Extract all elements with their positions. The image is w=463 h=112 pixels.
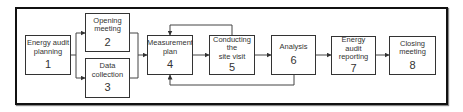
step-7-energy-audit-reporting: Energy audit reporting 7 xyxy=(331,36,376,75)
step-label: Energy audit planning xyxy=(27,39,69,56)
step-1-energy-audit-planning: Energy audit planning 1 xyxy=(25,35,71,75)
arrow-1-to-3 xyxy=(76,55,85,78)
step-label: Opening meeting xyxy=(93,17,121,34)
arrow-6-to-4-feedback xyxy=(170,75,294,85)
step-label: Data collection xyxy=(92,62,123,79)
step-number: 1 xyxy=(45,58,51,71)
energy-audit-diagram: Energy audit planning 1 Opening meeting … xyxy=(0,0,463,112)
step-label: Closing meeting xyxy=(399,40,426,57)
step-number: 6 xyxy=(290,54,296,67)
arrow-2-to-4 xyxy=(130,33,147,55)
step-number: 5 xyxy=(229,61,235,74)
step-number: 3 xyxy=(104,81,110,94)
step-5-conducting-site-visit: Conducting the site visit 5 xyxy=(209,35,255,75)
step-label: Energy audit reporting xyxy=(339,36,369,62)
step-2-opening-meeting: Opening meeting 2 xyxy=(85,13,130,52)
step-label: Measurement plan xyxy=(147,39,193,56)
arrow-1-to-2 xyxy=(71,33,85,55)
step-4-measurement-plan: Measurement plan 4 xyxy=(147,35,193,75)
step-label: Analysis xyxy=(280,43,308,52)
step-number: 2 xyxy=(104,36,110,49)
step-number: 8 xyxy=(409,59,415,72)
step-label: Conducting the site visit xyxy=(213,36,251,62)
step-number: 7 xyxy=(350,62,356,75)
step-6-analysis: Analysis 6 xyxy=(271,35,316,75)
step-3-data-collection: Data collection 3 xyxy=(85,58,130,98)
step-8-closing-meeting: Closing meeting 8 xyxy=(389,36,436,75)
step-number: 4 xyxy=(167,58,173,71)
arrow-3-to-4 xyxy=(130,55,138,78)
arrow-5-to-4-feedback xyxy=(170,25,232,35)
